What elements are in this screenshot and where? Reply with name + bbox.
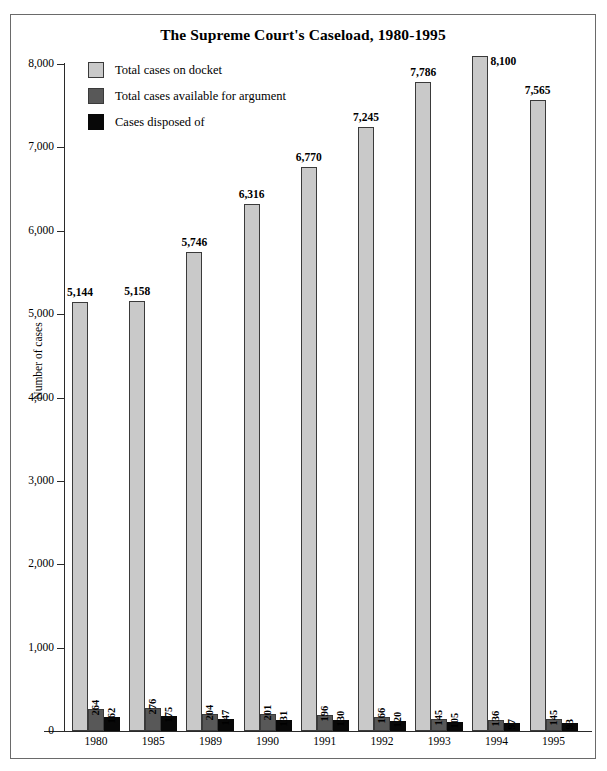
light-gray-swatch: [88, 62, 104, 78]
y-tick-mark: [57, 481, 65, 482]
legend-label: Total cases available for argument: [115, 89, 286, 104]
bar-1994-series0: [472, 56, 488, 731]
bar-value-label: 5,746: [164, 237, 224, 249]
y-tick-mark: [57, 231, 65, 232]
black-swatch: [88, 114, 104, 130]
y-tick-label: 1,000: [28, 642, 54, 654]
bar-value-label: 97: [507, 719, 518, 730]
legend-label: Total cases on docket: [115, 63, 222, 78]
bar-value-label: 5,158: [107, 286, 167, 298]
x-axis-line: [44, 731, 592, 732]
bar-1992-series0: [358, 127, 374, 731]
bar-value-label: 145: [548, 710, 559, 726]
bar-value-label: 6,316: [222, 189, 282, 201]
y-tick-mark: [57, 564, 65, 565]
y-tick-label: 7,000: [28, 141, 54, 153]
legend-item-2[interactable]: Cases disposed of: [88, 111, 388, 133]
bar-1989-series0: [186, 252, 202, 731]
chart-figure: The Supreme Court's Caseload, 1980-1995 …: [0, 0, 607, 771]
y-tick-mark: [57, 147, 65, 148]
bar-1985-series0: [129, 301, 145, 731]
bar-value-label: 276: [148, 699, 159, 715]
bar-value-label: 7,565: [508, 85, 568, 97]
y-tick-label: 5,000: [28, 308, 54, 320]
y-tick-label: 4,000: [28, 392, 54, 404]
legend-item-1[interactable]: Total cases available for argument: [88, 85, 388, 107]
x-tick-label: 1995: [514, 736, 594, 748]
dark-gray-swatch: [88, 88, 104, 104]
y-tick-mark: [57, 648, 65, 649]
bar-value-label: 6,770: [279, 152, 339, 164]
y-tick-label: 0: [48, 725, 54, 737]
bar-value-label: 7,786: [393, 67, 453, 79]
chart-legend: Total cases on docketTotal cases availab…: [88, 59, 388, 137]
bar-value-label: 93: [564, 719, 575, 730]
bar-value-label: 147: [221, 709, 232, 725]
bar-value-label: 5,144: [50, 287, 110, 299]
bar-1995-series0: [530, 100, 546, 731]
bar-value-label: 136: [491, 710, 502, 726]
y-tick-label: 3,000: [28, 475, 54, 487]
bar-value-label: 130: [335, 711, 346, 727]
y-tick-mark: [57, 398, 65, 399]
bar-value-label: 196: [319, 705, 330, 721]
bar-value-label: 162: [107, 708, 118, 724]
legend-item-0[interactable]: Total cases on docket: [88, 59, 388, 81]
chart-title: The Supreme Court's Caseload, 1980-1995: [10, 26, 596, 44]
bar-1980-series0: [72, 302, 88, 731]
y-tick-mark: [57, 731, 65, 732]
bar-1991-series0: [301, 167, 317, 731]
bar-value-label: 175: [164, 707, 175, 723]
bar-1990-series0: [244, 204, 260, 731]
y-tick-mark: [57, 64, 65, 65]
bar-value-label: 145: [434, 710, 445, 726]
legend-label: Cases disposed of: [115, 115, 205, 130]
bar-value-label: 201: [262, 705, 273, 721]
bar-value-label: 105: [450, 713, 461, 729]
bar-value-label: 8,100: [490, 56, 540, 68]
bar-value-label: 131: [278, 711, 289, 727]
bar-value-label: 120: [393, 712, 404, 728]
bar-value-label: 264: [91, 700, 102, 716]
y-tick-mark: [57, 314, 65, 315]
bar-1993-series0: [415, 82, 431, 731]
bar-value-label: 204: [205, 705, 216, 721]
y-tick-label: 6,000: [28, 225, 54, 237]
bar-value-label: 166: [377, 708, 388, 724]
y-tick-label: 8,000: [28, 58, 54, 70]
y-tick-label: 2,000: [28, 558, 54, 570]
